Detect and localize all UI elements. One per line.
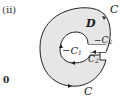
inner-curve-label: −C1 (62, 46, 82, 56)
cut-upper-label-sub: 2 (108, 38, 112, 45)
inner-curve-label-sub: 1 (78, 49, 82, 56)
inner-curve-label-text: −C (62, 45, 78, 56)
region-label-d: D (86, 18, 96, 29)
outer-curve-label: C (110, 4, 118, 15)
axis-zero-label: 0 (3, 75, 9, 85)
region-diagram (0, 0, 120, 100)
cut-lower-label-sub: 2 (95, 57, 99, 64)
cut-lower-label: C2 (88, 55, 99, 64)
cut-upper-label-text: −C (94, 35, 108, 45)
cut-lower-label-text: C (88, 54, 95, 64)
cut-upper-label: −C2 (94, 36, 112, 45)
outer-curve-label-bottom: C (84, 86, 92, 97)
